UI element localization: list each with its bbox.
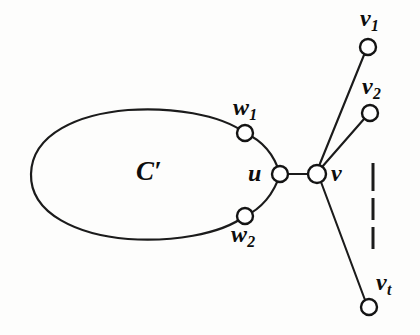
- label-vt-subscript: t: [387, 281, 391, 298]
- label-v2-base: v: [362, 73, 373, 99]
- label-v-base: v: [331, 160, 342, 186]
- label-vt-base: v: [376, 269, 387, 295]
- label-v: v: [331, 161, 342, 185]
- label-w2-base: w: [231, 221, 247, 247]
- node-vt[interactable]: [361, 299, 377, 315]
- label-w1: w1: [233, 95, 257, 119]
- label-u-base: u: [248, 160, 261, 186]
- node-v2[interactable]: [362, 105, 378, 121]
- graph-figure: C′ w1 u w2 v v1 v2 vt: [0, 0, 420, 335]
- label-cycle-c-prime: C′: [136, 158, 162, 185]
- label-v2-subscript: 2: [373, 85, 381, 102]
- node-v1[interactable]: [360, 39, 376, 55]
- edge-v-v1: [319, 55, 364, 166]
- edge-v-vt: [321, 182, 365, 300]
- label-w1-base: w: [233, 94, 249, 120]
- node-v[interactable]: [308, 165, 326, 183]
- label-w2: w2: [231, 222, 255, 246]
- label-cycle-prime: ′: [154, 156, 162, 186]
- label-vt: vt: [376, 270, 391, 294]
- label-v2: v2: [362, 74, 381, 98]
- node-u[interactable]: [272, 166, 288, 182]
- label-v1: v1: [360, 6, 379, 30]
- label-w2-subscript: 2: [247, 233, 255, 250]
- graph-canvas: [0, 0, 420, 335]
- label-w1-subscript: 1: [249, 106, 257, 123]
- label-cycle-base: C: [136, 156, 154, 186]
- label-v1-subscript: 1: [371, 17, 379, 34]
- label-v1-base: v: [360, 5, 371, 31]
- label-u: u: [248, 161, 261, 185]
- node-w1[interactable]: [237, 125, 253, 141]
